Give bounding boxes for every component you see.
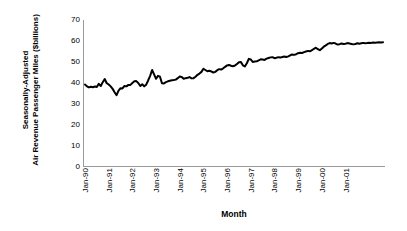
y-tick-label: 10 (60, 142, 80, 150)
x-tick-label: Jan-90 (80, 168, 90, 204)
y-axis-title-line1: Seasonally-Adjusted (21, 14, 31, 166)
y-tick-label: 60 (60, 37, 80, 45)
x-axis-tick-labels: Jan-90Jan-91Jan-92Jan-93Jan-94Jan-95Jan-… (83, 168, 385, 208)
y-tick-label: 50 (60, 58, 80, 66)
x-tick-label: Jan-92 (127, 168, 137, 204)
x-tick-label: Jan-96 (222, 168, 232, 204)
x-tick-label: Jan-95 (198, 168, 208, 204)
x-tick-label: Jan-01 (341, 168, 351, 204)
x-tick-label: Jan-94 (175, 168, 185, 204)
x-tick-label: Jan-00 (317, 168, 327, 204)
y-tick-label: 30 (60, 100, 80, 108)
y-axis-title: Seasonally-Adjusted Air Revenue Passenge… (0, 0, 62, 180)
x-tick-label: Jan-91 (104, 168, 114, 204)
y-tick-label: 20 (60, 121, 80, 129)
x-tick-label: Jan-93 (151, 168, 161, 204)
series-line-chart (83, 20, 385, 167)
data-series-line (85, 42, 383, 95)
x-tick-label: Jan-97 (246, 168, 256, 204)
plot-area (83, 20, 385, 167)
x-tick-label: Jan-98 (269, 168, 279, 204)
y-tick-label: 40 (60, 79, 80, 87)
x-axis-title: Month (83, 209, 385, 219)
y-axis-title-line2: Air Revenue Passenger Miles ($billions) (31, 14, 41, 166)
chart-figure: Seasonally-Adjusted Air Revenue Passenge… (0, 0, 407, 231)
x-tick-label: Jan-99 (293, 168, 303, 204)
y-tick-label: 0 (60, 163, 80, 171)
y-axis-tick-labels: 010203040506070 (58, 0, 80, 200)
y-tick-label: 70 (60, 16, 80, 24)
